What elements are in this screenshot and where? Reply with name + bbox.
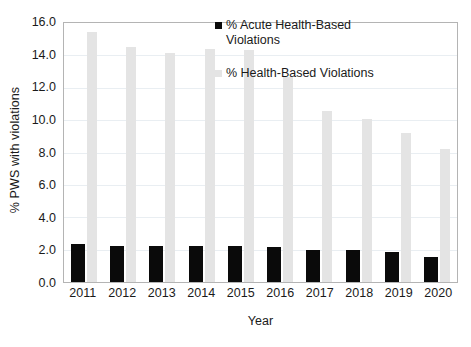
- y-axis-tick-label: 0.0: [39, 276, 56, 290]
- bar-acute-health-based-violations[interactable]: [424, 257, 438, 282]
- legend-label: % Acute Health-Based Violations: [226, 18, 401, 48]
- x-axis-tick-label: 2019: [379, 286, 419, 300]
- bar-health-based-violations[interactable]: [165, 53, 175, 282]
- x-axis-tick-label: 2015: [221, 286, 261, 300]
- y-axis-tick-label: 8.0: [39, 146, 56, 160]
- y-axis-title: % PWS with violations: [4, 0, 26, 300]
- y-axis-tick-label: 16.0: [32, 15, 56, 29]
- bar-acute-health-based-violations[interactable]: [149, 246, 163, 282]
- bar-health-based-violations[interactable]: [440, 149, 450, 282]
- bar-acute-health-based-violations[interactable]: [385, 252, 399, 282]
- x-axis-tick-label: 2020: [419, 286, 459, 300]
- x-axis-tick-label: 2018: [340, 286, 380, 300]
- bar-acute-health-based-violations[interactable]: [346, 250, 360, 282]
- y-axis-tick-label: 10.0: [32, 113, 56, 127]
- bar-chart-figure: % PWS with violations 16.014.012.010.08.…: [0, 0, 471, 347]
- bar-group: [64, 23, 103, 282]
- x-axis-tick-labels: 2011201220132014201520162017201820192020: [63, 286, 458, 300]
- y-axis-tick-labels: 16.014.012.010.08.06.04.02.00.0: [24, 22, 60, 283]
- chart-legend: % Acute Health-Based Violations% Health-…: [215, 18, 465, 99]
- x-axis-tick-label: 2016: [261, 286, 301, 300]
- y-axis-tick-label: 14.0: [32, 48, 56, 62]
- bar-acute-health-based-violations[interactable]: [189, 246, 203, 282]
- bar-health-based-violations[interactable]: [362, 119, 372, 282]
- x-axis-tick-label: 2012: [103, 286, 143, 300]
- bar-health-based-violations[interactable]: [283, 77, 293, 282]
- legend-entry[interactable]: % Health-Based Violations: [215, 66, 465, 81]
- bar-health-based-violations[interactable]: [205, 49, 215, 282]
- x-axis-tick-label: 2017: [300, 286, 340, 300]
- x-axis-tick-label: 2013: [142, 286, 182, 300]
- bar-acute-health-based-violations[interactable]: [228, 246, 242, 282]
- bar-health-based-violations[interactable]: [87, 32, 97, 282]
- y-axis-tick-label: 6.0: [39, 178, 56, 192]
- legend-swatch-icon: [215, 70, 222, 77]
- bar-health-based-violations[interactable]: [401, 133, 411, 282]
- legend-label: % Health-Based Violations: [226, 66, 374, 81]
- bar-acute-health-based-violations[interactable]: [110, 246, 124, 282]
- bar-group: [143, 23, 182, 282]
- bar-group: [103, 23, 142, 282]
- x-axis-tick-label: 2011: [63, 286, 103, 300]
- bar-acute-health-based-violations[interactable]: [71, 244, 85, 282]
- y-axis-tick-label: 2.0: [39, 243, 56, 257]
- x-axis-title: Year: [63, 314, 458, 328]
- legend-swatch-icon: [215, 22, 222, 29]
- bar-acute-health-based-violations[interactable]: [267, 247, 281, 282]
- y-axis-tick-label: 12.0: [32, 80, 56, 94]
- bar-health-based-violations[interactable]: [322, 111, 332, 282]
- bar-acute-health-based-violations[interactable]: [306, 250, 320, 282]
- bar-health-based-violations[interactable]: [126, 47, 136, 282]
- y-axis-title-text: % PWS with violations: [8, 87, 22, 213]
- y-axis-tick-label: 4.0: [39, 211, 56, 225]
- legend-entry[interactable]: % Acute Health-Based Violations: [215, 18, 465, 48]
- x-axis-tick-label: 2014: [182, 286, 222, 300]
